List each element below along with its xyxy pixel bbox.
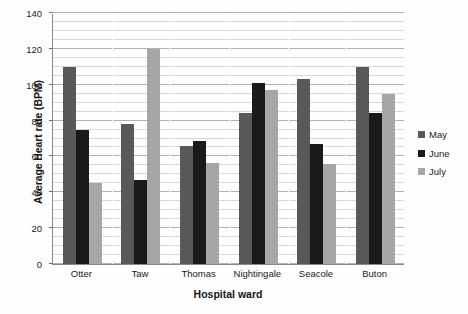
bar: [147, 49, 160, 264]
legend-label: May: [429, 130, 447, 140]
bar: [134, 180, 147, 264]
y-axis-tick-mark: [49, 120, 53, 121]
bar: [121, 124, 134, 264]
bar: [382, 94, 395, 264]
x-axis-tick-label: Otter: [52, 268, 111, 279]
legend-swatch-icon: [418, 131, 425, 138]
legend-item[interactable]: June: [418, 149, 450, 159]
y-axis-tick-label: 60: [16, 152, 42, 162]
bar-chart: Average Heart rate (BPM) 020406080100120…: [0, 0, 468, 314]
bar-group: [53, 14, 112, 264]
y-axis-tick-label: 80: [16, 117, 42, 127]
x-axis-tick-labels: OtterTawThomasNightingaleSeacoleButon: [52, 268, 404, 284]
legend-item[interactable]: May: [418, 130, 450, 140]
bar: [76, 130, 89, 264]
y-axis-tick-label: 100: [16, 81, 42, 91]
bar: [206, 163, 219, 264]
legend-swatch-icon: [418, 168, 425, 175]
x-axis-tick-label: Seacole: [287, 268, 346, 279]
y-axis-tick-label: 140: [16, 9, 42, 19]
bar: [63, 67, 76, 264]
legend-item[interactable]: July: [418, 167, 450, 177]
x-axis-tick-label: Taw: [111, 268, 170, 279]
bar-group: [170, 14, 229, 264]
y-axis-tick-label: 0: [16, 260, 42, 270]
bar: [265, 90, 278, 264]
x-axis-tick-label: Thomas: [169, 268, 228, 279]
x-axis-tick-label: Nightingale: [228, 268, 287, 279]
y-axis-tick-mark: [49, 155, 53, 156]
y-axis-tick-label: 120: [16, 45, 42, 55]
x-axis-title: Hospital ward: [52, 288, 404, 300]
bar: [252, 83, 265, 264]
bar-group: [112, 14, 171, 264]
legend-label: July: [429, 167, 446, 177]
bar-group: [346, 14, 405, 264]
bar: [297, 79, 310, 264]
legend-label: June: [429, 149, 450, 159]
bar: [310, 144, 323, 264]
y-axis-tick-labels: 020406080100120140: [14, 0, 42, 314]
y-axis-tick-mark: [49, 263, 53, 264]
bar: [323, 164, 336, 264]
bar: [180, 146, 193, 264]
y-axis-tick-mark: [49, 191, 53, 192]
bar: [89, 183, 102, 264]
bar: [193, 141, 206, 264]
chart-legend: MayJuneJuly: [418, 130, 450, 177]
y-axis-tick-mark: [49, 84, 53, 85]
plot-area: [52, 14, 404, 265]
legend-swatch-icon: [418, 150, 425, 157]
y-axis-tick-label: 20: [16, 224, 42, 234]
bar-group: [288, 14, 347, 264]
bar: [356, 67, 369, 264]
y-axis-tick-mark: [49, 12, 53, 13]
bar: [369, 113, 382, 264]
y-axis-tick-mark: [49, 48, 53, 49]
x-axis-tick-label: Buton: [345, 268, 404, 279]
bar-group: [229, 14, 288, 264]
y-axis-tick-label: 40: [16, 188, 42, 198]
y-axis-tick-mark: [49, 227, 53, 228]
bars-layer: [53, 14, 404, 264]
bar: [239, 113, 252, 264]
